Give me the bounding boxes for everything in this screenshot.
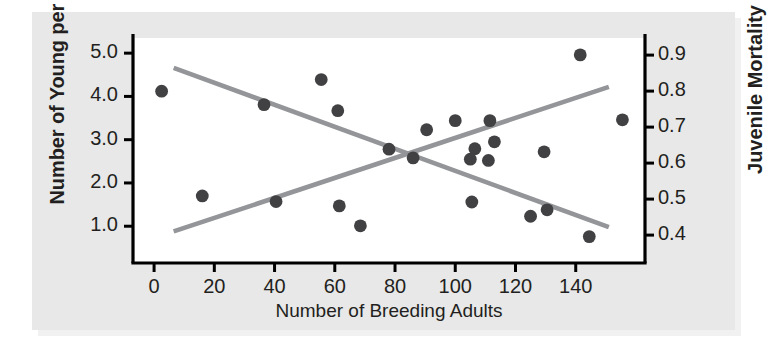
y-axis-right-title: Juvenile Mortality bbox=[744, 0, 767, 205]
y-tick-label-right: 0.9 bbox=[658, 42, 748, 65]
scatter-point bbox=[331, 104, 344, 117]
y-tick-label-left: 1.0 bbox=[28, 213, 118, 236]
figure-canvas: Number of Young per Female Juvenile Mort… bbox=[0, 0, 768, 347]
y-tick-label-right: 0.5 bbox=[658, 186, 748, 209]
scatter-point bbox=[383, 143, 396, 156]
scatter-point bbox=[541, 203, 554, 216]
y-tick-label-right: 0.8 bbox=[658, 78, 748, 101]
scatter-point bbox=[449, 114, 462, 127]
y-tick-label-left: 3.0 bbox=[28, 127, 118, 150]
y-tick-label-right: 0.4 bbox=[658, 222, 748, 245]
scatter-point bbox=[354, 219, 367, 232]
scatter-point bbox=[258, 98, 271, 111]
scatter-point bbox=[155, 85, 168, 98]
scatter-point bbox=[524, 210, 537, 223]
scatter-point bbox=[482, 154, 495, 167]
scatter-point bbox=[333, 199, 346, 212]
scatter-point bbox=[574, 48, 587, 61]
scatter-chart: Number of Young per Female Juvenile Mort… bbox=[0, 0, 768, 347]
y-tick-label-left: 2.0 bbox=[28, 170, 118, 193]
scatter-point bbox=[488, 135, 501, 148]
y-tick-label-right: 0.6 bbox=[658, 150, 748, 173]
scatter-point bbox=[468, 142, 481, 155]
scatter-point bbox=[583, 230, 596, 243]
scatter-point bbox=[196, 190, 209, 203]
scatter-point bbox=[420, 123, 433, 136]
scatter-point bbox=[315, 73, 328, 86]
x-tick-label: 140 bbox=[531, 275, 621, 298]
y-tick-label-left: 4.0 bbox=[28, 83, 118, 106]
scatter-point bbox=[483, 114, 496, 127]
scatter-point bbox=[538, 145, 551, 158]
y-tick-label-left: 5.0 bbox=[28, 40, 118, 63]
scatter-point bbox=[616, 113, 629, 126]
x-axis-title: Number of Breeding Adults bbox=[133, 300, 645, 322]
scatter-point bbox=[407, 151, 420, 164]
y-tick-label-right: 0.7 bbox=[658, 114, 748, 137]
scatter-point bbox=[465, 196, 478, 209]
scatter-point bbox=[270, 195, 283, 208]
